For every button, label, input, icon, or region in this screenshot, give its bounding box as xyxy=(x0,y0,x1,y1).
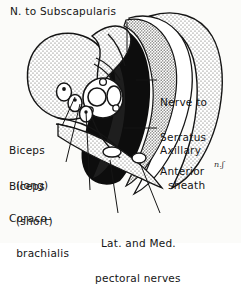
label-line: Biceps xyxy=(9,145,48,157)
label-line: Axillary xyxy=(160,145,205,157)
label-line: Nerve to xyxy=(160,97,207,109)
label-coracobrachialis: Coraco- brachialis xyxy=(9,190,69,271)
label-line: Coraco- xyxy=(9,213,69,225)
axillary-artery xyxy=(88,88,106,106)
label-line: sheath xyxy=(160,180,205,192)
label-axillary-sheath: Axillary sheath xyxy=(160,122,205,203)
label-line: pectoral nerves xyxy=(95,273,181,285)
axillary-vein xyxy=(107,86,121,106)
label-n-to-subscapularis: N. to Subscapularis xyxy=(10,6,116,18)
label-line: Lat. and Med. xyxy=(95,238,181,250)
artist-signature: n.ʃ xyxy=(214,160,224,169)
label-lat-and-med-pectoral-nerves: Lat. and Med. pectoral nerves xyxy=(95,215,181,288)
label-line: brachialis xyxy=(9,248,69,260)
